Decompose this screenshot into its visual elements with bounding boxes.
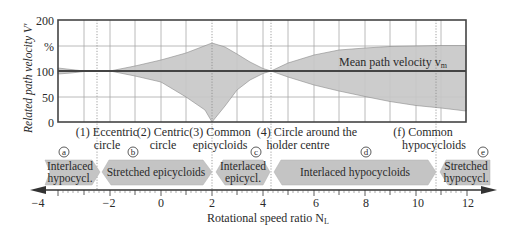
annotation-3-line1: (3) Common [189,125,251,139]
region-e-id: e [481,147,485,157]
region-d-line1: Interlaced hypocycloids [300,166,411,179]
region-d-id: d [364,147,369,157]
annotation-2-line1: (2) Centric [137,125,189,139]
region-c-line1: Interlaced [220,160,266,172]
xtick-6: 6 [313,196,319,210]
x-axis-label-main: Rotational speed ratio N [207,211,324,225]
annotation-1-line2: circle [94,138,121,152]
x-axis [30,186,497,196]
annotation-5-line1: (f) Common [393,125,453,139]
annotation-3-line2: epicycloids [193,138,248,152]
y-axis-label: Related path velocity V' [22,23,35,134]
xtick-12: 12 [462,196,474,210]
annotation-4-line2: holder centre [267,138,330,152]
mean-label-sub: m [441,61,448,70]
annotation-2-line2: circle [150,138,177,152]
left-arrowhead-icon [30,186,46,194]
ytick-100: 100 [36,65,54,79]
ytick-50: 50 [42,91,54,105]
region-b-line1: Stretched epicycloids [107,166,206,179]
ytick-200: 200 [36,14,54,28]
region-e-line1: Stretched [444,160,488,172]
xtick-10: 10 [412,196,424,210]
ytick-pct: % [44,40,54,54]
xtick-2: 2 [209,196,215,210]
annotation-4-line1: (4) Circle around the [257,125,357,139]
region-a-id: a [62,147,66,157]
region-b-id: b [131,147,136,157]
chart-canvas: 200 % 100 50 0 Related path velocity V' … [0,0,515,234]
region-c-id: c [254,147,258,157]
right-arrowhead-icon [481,186,497,194]
xtick-m4: −4 [32,196,45,210]
ytick-0: 0 [48,116,54,130]
x-axis-label-sub: L [324,217,329,226]
x-axis-label: Rotational speed ratio NL [207,211,329,226]
mean-label-main: Mean path velocity v [339,55,441,69]
region-c-line2: epicycl. [225,172,261,185]
region-a-line1: Interlaced [47,160,93,172]
region-a-line2: hypocycl. [47,172,92,185]
mean-label: Mean path velocity vm [339,55,448,70]
xtick-4: 4 [260,196,266,210]
annotation-1-line1: (1) Eccentric [76,125,138,139]
annotation-5-line2: hypocycloids [402,138,466,152]
xtick-m2: −2 [103,196,116,210]
region-e-line2: hypocycl. [443,172,488,185]
xtick-8: 8 [363,196,369,210]
xtick-0: 0 [158,196,164,210]
